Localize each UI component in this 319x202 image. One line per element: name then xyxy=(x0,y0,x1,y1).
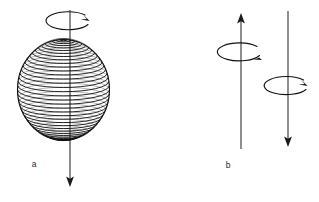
spin-down-vector-group xyxy=(264,11,307,147)
latitude-line-back xyxy=(27,50,100,58)
rotation-ellipse-arc xyxy=(46,12,88,30)
latitude-line-back xyxy=(30,48,98,56)
panel-b-group xyxy=(217,11,307,149)
panel-label-b: b xyxy=(226,160,231,170)
spin-up-rotation-arrow xyxy=(217,43,262,61)
panel-label-a: a xyxy=(32,159,37,169)
figure-container: a b xyxy=(0,0,319,202)
physics-diagram-svg: a b xyxy=(0,0,319,202)
spin-down-rotation-arrow xyxy=(264,77,307,95)
latitude-line xyxy=(30,123,98,131)
panel-a-rotation-arrow xyxy=(46,12,90,30)
latitude-line xyxy=(27,120,100,128)
spin-up-rotation-ellipse xyxy=(217,43,259,61)
spin-up-vector-group xyxy=(217,13,262,149)
spin-down-rotation-ellipse xyxy=(264,77,306,95)
